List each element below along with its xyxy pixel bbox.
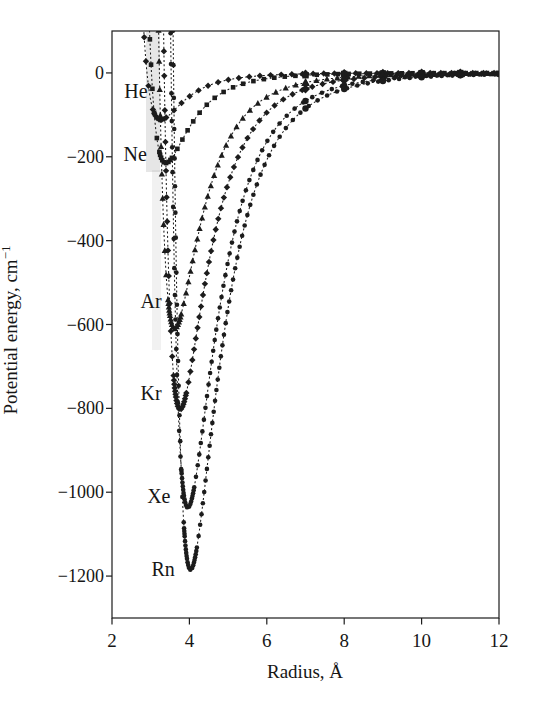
data-marker <box>467 72 472 77</box>
data-marker <box>225 310 230 315</box>
data-marker <box>197 225 203 231</box>
data-marker <box>173 235 178 240</box>
data-marker <box>325 93 330 98</box>
data-marker <box>235 219 240 224</box>
data-marker <box>236 75 242 81</box>
data-marker <box>227 251 232 256</box>
data-marker <box>193 335 199 341</box>
data-marker <box>212 96 217 101</box>
data-marker <box>272 144 277 149</box>
data-marker <box>241 81 246 86</box>
data-marker <box>403 75 408 80</box>
data-marker <box>206 259 212 265</box>
data-marker <box>445 73 450 78</box>
data-marker <box>260 148 265 153</box>
data-marker <box>244 188 249 193</box>
data-marker <box>213 398 218 403</box>
data-marker <box>169 119 174 124</box>
data-marker <box>175 147 180 152</box>
markers-rn <box>162 0 497 572</box>
y-axis-title: Potential energy, cm−1 <box>0 246 21 415</box>
data-marker <box>214 388 219 393</box>
data-marker <box>292 106 297 111</box>
curve-rn <box>164 0 499 570</box>
data-marker <box>345 86 350 91</box>
data-marker <box>207 443 212 448</box>
x-tick-label-8: 8 <box>339 630 349 651</box>
data-marker <box>215 377 220 382</box>
data-marker <box>155 136 160 141</box>
data-marker <box>215 79 221 85</box>
data-marker <box>162 107 168 113</box>
data-marker <box>191 346 197 352</box>
data-marker <box>263 94 269 100</box>
data-marker <box>365 81 370 86</box>
x-tick-label-6: 6 <box>262 630 272 651</box>
data-marker <box>392 76 397 81</box>
data-marker <box>397 77 402 82</box>
data-marker <box>277 134 282 139</box>
data-marker <box>182 534 187 539</box>
markers-ar <box>144 0 500 331</box>
data-marker <box>306 104 311 109</box>
data-marker <box>183 543 188 548</box>
data-marker <box>386 78 391 83</box>
data-marker <box>229 288 234 293</box>
data-marker <box>215 162 221 168</box>
data-marker <box>213 226 219 232</box>
data-marker <box>205 193 211 199</box>
data-marker <box>267 153 272 158</box>
data-marker <box>161 73 167 79</box>
data-marker <box>178 454 183 459</box>
data-marker <box>200 429 205 434</box>
data-marker <box>371 78 376 83</box>
data-marker <box>272 75 277 80</box>
data-marker <box>202 281 208 287</box>
data-marker <box>185 128 190 133</box>
data-marker <box>202 490 207 495</box>
data-marker <box>160 0 166 1</box>
data-marker <box>219 152 225 158</box>
data-marker <box>196 534 201 539</box>
data-marker <box>175 332 180 337</box>
data-marker <box>168 0 173 3</box>
data-marker <box>203 406 208 411</box>
data-marker <box>209 359 214 364</box>
scan-smudge <box>152 170 161 350</box>
data-marker <box>298 110 303 115</box>
data-marker <box>181 520 186 525</box>
data-marker <box>265 139 270 144</box>
data-marker <box>200 292 206 298</box>
data-marker <box>190 258 196 264</box>
y-tick-label--1000: −1000 <box>58 482 104 502</box>
data-marker <box>219 295 224 300</box>
data-marker <box>169 353 175 359</box>
data-marker <box>335 89 340 94</box>
data-marker <box>174 270 179 275</box>
labels-group: 246810120−200−400−600−800−1000−1200HeNeA… <box>58 63 509 651</box>
data-marker <box>161 48 167 54</box>
data-marker <box>319 81 325 87</box>
data-marker <box>255 100 261 106</box>
data-marker <box>407 76 412 81</box>
data-marker <box>147 12 152 17</box>
data-marker <box>482 72 487 77</box>
data-marker <box>202 204 208 210</box>
x-axis-title: Radius, Å <box>267 661 343 682</box>
data-marker <box>471 73 476 78</box>
data-marker <box>199 441 204 446</box>
series-label-rn: Rn <box>151 558 174 580</box>
data-marker <box>215 216 221 222</box>
data-marker <box>325 72 330 77</box>
data-marker <box>247 178 252 183</box>
data-marker <box>216 316 221 321</box>
data-marker <box>199 512 204 517</box>
data-marker <box>251 193 256 198</box>
data-marker <box>179 471 184 476</box>
data-marker <box>225 262 230 267</box>
data-marker <box>162 139 168 145</box>
y-tick-label--800: −800 <box>67 398 104 418</box>
data-marker <box>282 74 287 79</box>
data-marker <box>150 86 155 91</box>
series-label-kr: Kr <box>141 382 162 404</box>
